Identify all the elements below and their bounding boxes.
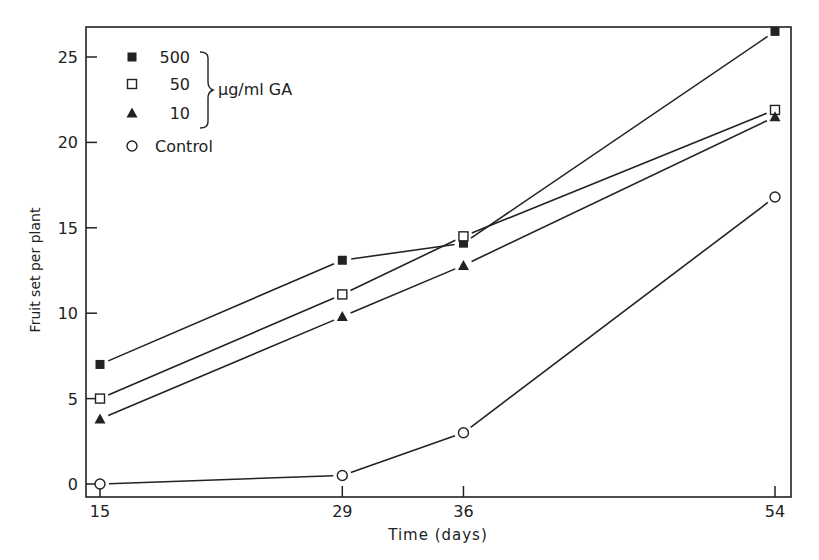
series-line-10 — [351, 269, 456, 313]
legend-label-10: 10 — [170, 104, 190, 123]
x-axis-label: Time (days) — [387, 526, 488, 544]
x-tick-label: 15 — [90, 502, 110, 521]
plot-frame — [86, 27, 791, 497]
legend-group-label: µg/ml GA — [218, 80, 292, 99]
data-point-10 — [458, 260, 469, 270]
legend-marker-10 — [127, 108, 138, 118]
x-tick-label: 29 — [332, 502, 352, 521]
series-line-10 — [472, 121, 767, 262]
series-line-10 — [108, 320, 334, 415]
data-point-500 — [96, 360, 105, 369]
chart-canvas: 051015202515293654 5005010Controlµg/ml G… — [0, 0, 819, 560]
legend-label-50: 50 — [170, 75, 190, 94]
series-markers — [95, 27, 781, 489]
data-point-10 — [337, 311, 348, 321]
series-line-control — [109, 476, 333, 484]
y-tick-label: 10 — [58, 304, 78, 323]
data-point-control — [95, 479, 105, 489]
data-point-50 — [459, 232, 468, 241]
data-point-control — [770, 192, 780, 202]
x-tick-label: 54 — [765, 502, 785, 521]
series-line-control — [351, 436, 455, 473]
x-tick-label: 36 — [453, 502, 473, 521]
y-tick-label: 15 — [58, 219, 78, 238]
data-point-control — [458, 428, 468, 438]
legend-marker-control — [127, 141, 137, 151]
data-point-500 — [338, 256, 347, 265]
series-line-50 — [350, 240, 455, 290]
data-point-50 — [96, 394, 105, 403]
series-line-500 — [351, 244, 454, 259]
data-point-50 — [338, 290, 347, 299]
line-chart: 051015202515293654 5005010Controlµg/ml G… — [0, 0, 819, 560]
data-point-10 — [95, 414, 106, 424]
y-tick-label: 25 — [58, 48, 78, 67]
data-point-control — [337, 470, 347, 480]
legend-label-500: 500 — [159, 48, 190, 67]
legend-label-control: Control — [155, 137, 213, 156]
legend-brace — [200, 52, 213, 128]
legend-marker-50 — [128, 80, 137, 89]
series-line-500 — [471, 36, 768, 238]
series-lines — [108, 36, 768, 483]
legend-marker-500 — [128, 53, 137, 62]
y-tick-label: 5 — [68, 390, 78, 409]
y-tick-label: 20 — [58, 133, 78, 152]
y-axis-label: Fruit set per plant — [27, 207, 43, 332]
series-line-control — [471, 202, 768, 427]
series-line-50 — [472, 113, 767, 233]
y-tick-label: 0 — [68, 475, 78, 494]
data-point-500 — [771, 27, 780, 36]
legend: 5005010Controlµg/ml GA — [127, 48, 293, 156]
